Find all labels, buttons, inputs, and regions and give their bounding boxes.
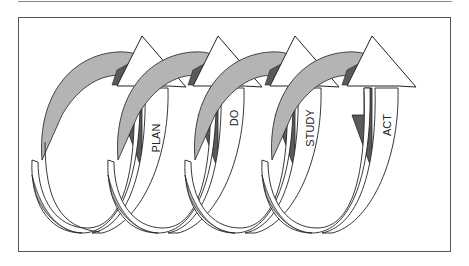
stage-label-plan: PLAN — [150, 124, 162, 153]
stage-label-study: STUDY — [304, 109, 316, 147]
stage-label-act: ACT — [381, 114, 393, 136]
pdsa-spiral-diagram: PLAN DO STUDY ACT — [0, 0, 469, 266]
stage-label-do: DO — [228, 109, 240, 126]
